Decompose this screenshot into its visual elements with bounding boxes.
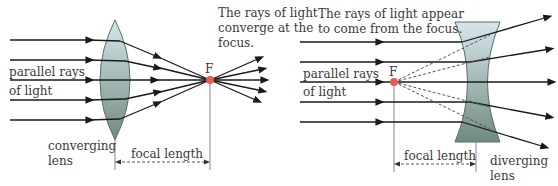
lens-label-line-1: diverging — [490, 154, 548, 168]
caption-line-1: The rays of light — [218, 6, 318, 20]
arrow-left-icon — [115, 160, 121, 165]
arrow-left-icon — [394, 162, 400, 167]
focus-label: F — [389, 65, 397, 79]
input-label-line-2: of light — [303, 85, 347, 99]
focal-length-label: focal length — [131, 147, 203, 161]
focus-point — [390, 78, 398, 86]
focus-point — [206, 76, 214, 84]
caption-line-1: The rays of light appear — [318, 7, 464, 21]
caption-line-2: converge at the — [218, 21, 313, 35]
caption-line-2: to come from the focus. — [318, 22, 462, 36]
input-label-line-1: parallel rays — [303, 67, 379, 81]
diverging-lens-diagram: F focal length The rays of light appear … — [300, 7, 552, 183]
lens-label-line-2: lens — [490, 169, 515, 183]
focus-label: F — [205, 62, 213, 76]
input-label-line-2: of light — [9, 84, 53, 98]
converging-lens-diagram: F focal length The rays of light converg… — [9, 6, 318, 170]
caption-line-3: focus. — [218, 36, 254, 50]
input-label-line-1: parallel rays — [9, 65, 85, 79]
focal-length-label: focal length — [404, 149, 476, 163]
lens-label-line-2: lens — [48, 154, 73, 168]
arrow-right-icon — [204, 160, 210, 165]
rays-after-focus — [210, 58, 265, 101]
lens-label-line-1: converging — [48, 139, 117, 153]
